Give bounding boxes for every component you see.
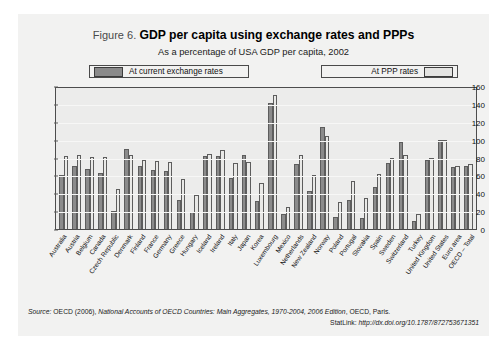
x-axis-tick-label: Australia — [47, 233, 67, 258]
legend-label-ppp-rates: At PPP rates — [371, 67, 418, 76]
x-axis-label-cell: Germany — [161, 231, 174, 287]
y-axis-tick-label: 0 — [455, 226, 485, 235]
y-axis-tick-label: 120 — [455, 118, 485, 127]
legend-swatch-icon-exchange-rates — [94, 67, 123, 77]
x-axis-labels: AustraliaAustriaBelgiumCanadaCzech Repub… — [55, 231, 477, 287]
x-axis-label-cell: Ireland — [213, 231, 226, 287]
bar-ppp-rate — [325, 136, 329, 229]
chart-area: AustraliaAustriaBelgiumCanadaCzech Repub… — [18, 87, 489, 287]
gridline — [56, 105, 476, 106]
y-axis-tick-mark — [54, 104, 58, 105]
bar-ppp-rate — [299, 155, 303, 229]
bar-ppp-rate — [168, 162, 172, 229]
y-axis-tick-mark — [54, 176, 58, 177]
bar-ppp-rate — [312, 175, 316, 229]
gridline — [56, 123, 476, 124]
page-title: Figure 6. GDP per capita using exchange … — [18, 28, 489, 42]
x-axis-label-cell: New Zealand — [306, 231, 319, 287]
y-axis-tick-mark — [54, 230, 58, 231]
bar-ppp-rate — [403, 155, 407, 229]
bar-ppp-rate — [286, 207, 290, 229]
x-axis-label-cell: Japan — [240, 231, 253, 287]
x-axis-label-cell: Luxembourg — [266, 231, 279, 287]
bar-ppp-rate — [129, 155, 133, 229]
figure-panel: Figure 6. GDP per capita using exchange … — [18, 14, 489, 336]
y-axis-tick-mark — [54, 122, 58, 123]
x-axis-label-cell: Slovakia — [358, 231, 371, 287]
x-axis-label-cell: Switzerland — [398, 231, 411, 287]
x-axis-label-cell: Iceland — [200, 231, 213, 287]
bar-ppp-rate — [233, 163, 237, 229]
y-axis-tick-mark — [54, 212, 58, 213]
bar-ppp-rate — [377, 174, 381, 229]
bar-ppp-rate — [77, 155, 81, 229]
bar-ppp-rate — [64, 156, 68, 229]
x-axis-label-cell: Italy — [226, 231, 239, 287]
plot-frame — [55, 87, 477, 230]
legend-item-ppp-rates: At PPP rates — [321, 65, 458, 78]
gridline — [56, 176, 476, 177]
y-axis-tick-label: 140 — [455, 100, 485, 109]
x-axis-label-cell: OECD – Total — [464, 231, 477, 287]
y-axis-tick-mark — [54, 87, 58, 88]
bar-ppp-rate — [90, 157, 94, 229]
x-axis-label-cell: Greece — [174, 231, 187, 287]
bar-ppp-rate — [416, 214, 420, 229]
bar-ppp-rate — [207, 154, 211, 229]
source-suffix: , OECD, Paris. — [346, 308, 391, 315]
y-axis-tick-label: 60 — [455, 172, 485, 181]
x-axis-label-cell: France — [147, 231, 160, 287]
y-axis-tick-label: 80 — [455, 154, 485, 163]
x-axis-label-cell: Finland — [134, 231, 147, 287]
legend-label-exchange-rates: At current exchange rates — [129, 67, 223, 76]
x-axis-label-cell: Denmark — [121, 231, 134, 287]
x-axis-label-cell: Norway — [319, 231, 332, 287]
legend-swatch-icon-ppp-rates — [424, 67, 453, 77]
bar-ppp-rate — [181, 179, 185, 229]
x-axis-label-cell: Belgium — [81, 231, 94, 287]
figure-subtitle: As a percentage of USA GDP per capita, 2… — [18, 47, 489, 57]
bar-ppp-rate — [220, 150, 224, 229]
y-axis-tick-label: 100 — [455, 136, 485, 145]
source-line: Source: OECD (2006), National Accounts o… — [28, 307, 479, 317]
source-prefix: OECD (2006), — [51, 308, 98, 315]
legend-item-exchange-rates: At current exchange rates — [89, 65, 249, 78]
bar-ppp-rate — [103, 157, 107, 229]
chart-legend: At current exchange rates At PPP rates — [18, 65, 489, 81]
source-publication: National Accounts of OECD Countries: Mai… — [98, 308, 345, 315]
x-axis-label-cell: Hungary — [187, 231, 200, 287]
x-axis-label-cell: Czech Republic — [108, 231, 121, 287]
y-axis-tick-mark — [54, 140, 58, 141]
bar-ppp-rate — [338, 202, 342, 229]
statlink-line: StatLink: http://dx.doi.org/10.1787/8727… — [28, 318, 479, 328]
gridline — [56, 212, 476, 213]
statlink-url[interactable]: http://dx.doi.org/10.1787/872753671351 — [358, 319, 479, 326]
x-axis-label-cell: Spain — [372, 231, 385, 287]
bar-ppp-rate — [442, 140, 446, 229]
gridline — [56, 159, 476, 160]
bar-ppp-rate — [273, 95, 277, 229]
bar-ppp-rate — [246, 162, 250, 229]
y-axis-tick-label: 20 — [455, 208, 485, 217]
x-axis-label-cell: Portugal — [345, 231, 358, 287]
gridline — [56, 194, 476, 195]
y-axis-tick-label: 40 — [455, 190, 485, 199]
x-axis-label-cell: Australia — [55, 231, 68, 287]
figure-title-text: GDP per capita using exchange rates and … — [139, 28, 414, 42]
figure-number: Figure 6. — [93, 29, 136, 41]
figure-footer: Source: OECD (2006), National Accounts o… — [28, 307, 479, 328]
y-axis-tick-label: 160 — [455, 83, 485, 92]
x-axis-label-cell: Austria — [68, 231, 81, 287]
source-label: Source: — [28, 308, 51, 315]
bar-ppp-rate — [364, 198, 368, 229]
x-axis-label-cell: Poland — [332, 231, 345, 287]
y-axis — [18, 87, 54, 230]
gridline — [56, 141, 476, 142]
bar-ppp-rate — [351, 181, 355, 229]
bar-ppp-rate — [259, 183, 263, 229]
statlink-label: StatLink: — [330, 319, 356, 326]
y-axis-tick-mark — [54, 158, 58, 159]
y-axis-tick-mark — [54, 194, 58, 195]
